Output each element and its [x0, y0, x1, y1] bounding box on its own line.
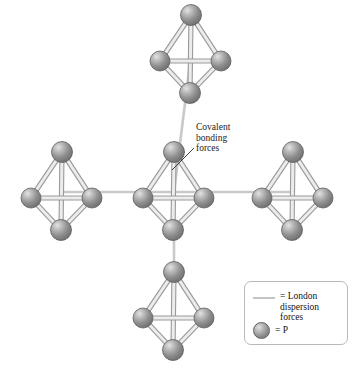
legend-box: = London dispersion forces = P	[244, 281, 348, 345]
covalent-bond-highlight	[173, 272, 174, 350]
phosphorus-atom	[163, 340, 184, 361]
phosphorus-atom	[194, 188, 214, 208]
legend-label-phosphorus: = P	[275, 325, 288, 336]
diagram-canvas: Covalent bonding forces = London dispers…	[0, 0, 360, 374]
legend-item-london-dispersion: = London dispersion forces	[253, 291, 319, 323]
p4-molecule	[133, 262, 214, 361]
p4-molecule	[21, 142, 102, 241]
phosphorus-atom	[164, 262, 185, 283]
covalent-bond-highlight	[173, 152, 174, 230]
legend-item-phosphorus: = P	[253, 322, 288, 339]
phosphorus-atom	[133, 188, 153, 208]
phosphorus-atom	[282, 220, 303, 241]
p4-molecule	[150, 5, 231, 104]
covalent-bond-highlight	[61, 152, 62, 230]
phosphorus-atom	[180, 83, 201, 104]
phosphorus-atom	[313, 188, 333, 208]
phosphorus-atom	[52, 142, 73, 163]
phosphorus-atom	[181, 5, 202, 26]
phosphorus-atom	[283, 142, 304, 163]
line-swatch-icon	[253, 297, 275, 299]
covalent-bond-highlight	[292, 152, 293, 230]
phosphorus-atom	[252, 188, 272, 208]
phosphorus-atom	[211, 51, 231, 71]
legend-label-london-dispersion: = London dispersion forces	[280, 291, 319, 323]
phosphorus-atom	[164, 142, 185, 163]
covalent-bonding-label: Covalent bonding forces	[196, 122, 230, 154]
p4-molecule	[252, 142, 333, 241]
sphere-swatch-icon	[253, 322, 270, 339]
phosphorus-atom	[21, 188, 41, 208]
covalent-bond-highlight	[190, 15, 191, 93]
phosphorus-atom	[133, 308, 153, 328]
p4-molecule	[133, 142, 214, 241]
phosphorus-atom	[82, 188, 102, 208]
phosphorus-atom	[51, 220, 72, 241]
phosphorus-atom	[163, 220, 184, 241]
phosphorus-atom	[150, 51, 170, 71]
phosphorus-atom	[194, 308, 214, 328]
